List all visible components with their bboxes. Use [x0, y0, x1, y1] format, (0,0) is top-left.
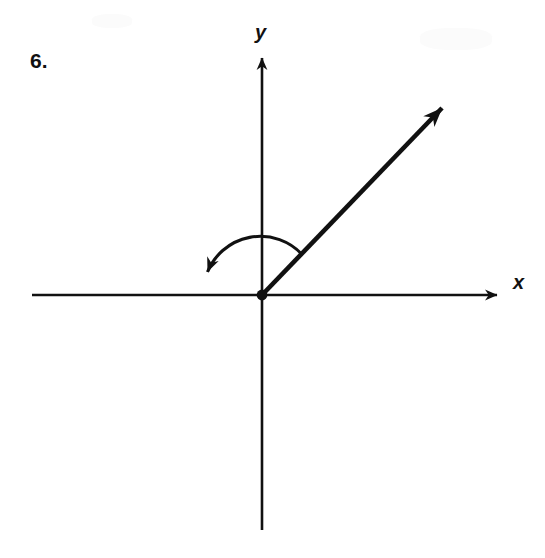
angle-diagram-svg — [0, 0, 545, 558]
x-axis-label: x — [513, 272, 524, 292]
terminal-ray — [262, 108, 442, 295]
problem-number-label: 6. — [30, 50, 48, 71]
origin-point — [257, 290, 268, 301]
figure-canvas: 6. y x — [0, 0, 545, 558]
y-axis-label: y — [255, 22, 266, 42]
